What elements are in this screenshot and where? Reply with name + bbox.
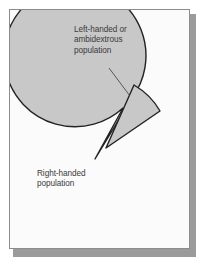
pie-label-right-handed-line1: Right-handed xyxy=(37,169,86,179)
pie-label-left-handed-line1: Left-handed or xyxy=(74,25,127,35)
pie-label-right-handed-line2: population xyxy=(37,179,86,189)
figure-panel: Left-handed or ambidextrous population R… xyxy=(9,9,190,249)
pie-label-left-handed-line2: ambidextrous xyxy=(74,35,127,45)
figure-root: Left-handed or ambidextrous population R… xyxy=(0,0,200,264)
pie-label-left-handed-line3: population xyxy=(74,46,127,56)
pie-label-right-handed: Right-handed population xyxy=(37,169,86,190)
pie-label-left-handed: Left-handed or ambidextrous population xyxy=(74,25,127,56)
